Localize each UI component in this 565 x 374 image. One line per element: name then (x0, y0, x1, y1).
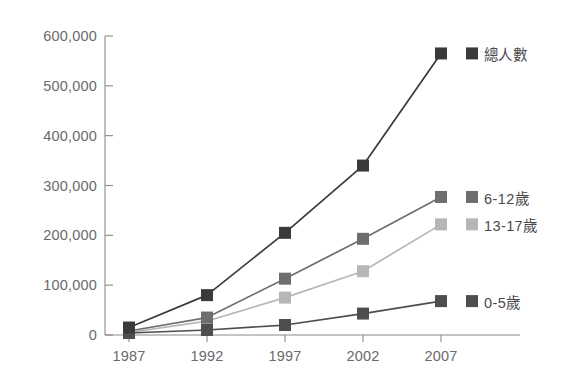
y-axis-tick-label: 400,000 (43, 128, 97, 144)
y-axis-tick-label: 0 (89, 327, 97, 343)
x-axis-tick-label: 2007 (424, 348, 457, 364)
series-marker (201, 324, 213, 336)
legend-swatch (466, 295, 478, 307)
series-label: 13-17歲 (484, 214, 538, 235)
series-line (129, 197, 441, 331)
series-marker (201, 312, 213, 324)
x-axis-tick-label: 1997 (268, 348, 301, 364)
legend-swatch (466, 218, 478, 230)
series-marker (435, 47, 447, 59)
series-marker (435, 218, 447, 230)
series-marker (123, 322, 135, 334)
data-series (123, 47, 447, 333)
series-marker (201, 289, 213, 301)
series-label: 6-12歲 (484, 186, 529, 207)
x-axis-tick-label: 1987 (112, 348, 145, 364)
y-axis-ticks (105, 36, 113, 335)
chart-container: 0100,000200,000300,000400,000500,000600,… (0, 0, 565, 374)
series-marker (279, 319, 291, 331)
series-marker (357, 233, 369, 245)
x-axis-tick-label: 1992 (190, 348, 223, 364)
x-axis-tick-label: 2002 (346, 348, 379, 364)
series-label: 總人數 (484, 43, 527, 64)
legend-swatch (466, 191, 478, 203)
y-axis-tick-label: 600,000 (43, 28, 97, 44)
series-marker (435, 295, 447, 307)
series-marker (357, 160, 369, 172)
y-axis-tick-label: 200,000 (43, 227, 97, 243)
y-axis-tick-label: 100,000 (43, 277, 97, 293)
series-line (129, 53, 441, 327)
legend-swatches (466, 47, 478, 307)
series-label: 0-5歲 (484, 291, 521, 312)
x-axis-ticks (129, 335, 441, 342)
legend-swatch (466, 47, 478, 59)
series-marker (279, 292, 291, 304)
axis-lines (105, 36, 520, 335)
series-marker (357, 308, 369, 320)
data-series (123, 191, 447, 337)
series-marker (357, 265, 369, 277)
series-marker (279, 227, 291, 239)
series-marker (435, 191, 447, 203)
series-marker (279, 273, 291, 285)
y-axis-tick-label: 500,000 (43, 78, 97, 94)
y-axis-tick-label: 300,000 (43, 178, 97, 194)
